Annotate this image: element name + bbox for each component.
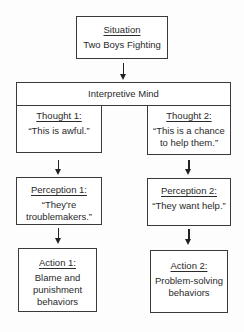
arrow-perception1-to-action1 bbox=[58, 228, 60, 239]
perception1-box: Perception 1: “They're troublemakers.” bbox=[16, 177, 102, 225]
thought1-title: Thought 1: bbox=[17, 110, 101, 122]
arrow-perception2-to-action2 bbox=[188, 229, 190, 240]
situation-title: Situation bbox=[77, 24, 167, 36]
thought1-box: Thought 1: “This is awful.” bbox=[16, 105, 102, 153]
action1-box: Action 1: Blame and punishment behaviors bbox=[18, 248, 97, 312]
mind-middle-divider bbox=[101, 105, 148, 106]
arrow-thought2-to-perception2 bbox=[188, 160, 190, 170]
action1-body-line3: behaviors bbox=[19, 296, 96, 308]
arrow-thought1-to-perception1 bbox=[58, 160, 60, 170]
thought2-title: Thought 2: bbox=[148, 110, 230, 122]
situation-body: Two Boys Fighting bbox=[77, 39, 167, 51]
action1-body-line2: punishment bbox=[19, 284, 96, 296]
thought2-body-line2: to help them.” bbox=[148, 137, 230, 149]
perception2-box: Perception 2: “They want help.” bbox=[147, 178, 231, 226]
action1-body-line1: Blame and bbox=[19, 272, 96, 284]
thought2-box: Thought 2: “This is a chance to help the… bbox=[147, 105, 231, 155]
thought1-body: “This is awful.” bbox=[17, 125, 101, 137]
arrow-situation-to-mind bbox=[123, 63, 125, 75]
perception1-body-line2: troublemakers.” bbox=[17, 211, 101, 223]
thought2-body-line1: “This is a chance bbox=[148, 125, 230, 137]
action2-box: Action 2: Problem-solving behaviors bbox=[150, 250, 228, 313]
action1-title: Action 1: bbox=[19, 257, 96, 269]
perception2-title: Perception 2: bbox=[148, 185, 230, 197]
interpretive-mind-header: Interpretive Mind bbox=[16, 82, 231, 106]
perception1-title: Perception 1: bbox=[17, 184, 101, 196]
situation-box: Situation Two Boys Fighting bbox=[76, 16, 168, 59]
perception2-body: “They want help.” bbox=[148, 200, 230, 212]
action2-title: Action 2: bbox=[151, 260, 227, 272]
interpretive-mind-title: Interpretive Mind bbox=[88, 88, 159, 99]
action2-body-line2: behaviors bbox=[151, 287, 227, 299]
perception1-body-line1: “They're bbox=[17, 199, 101, 211]
action2-body-line1: Problem-solving bbox=[151, 275, 227, 287]
